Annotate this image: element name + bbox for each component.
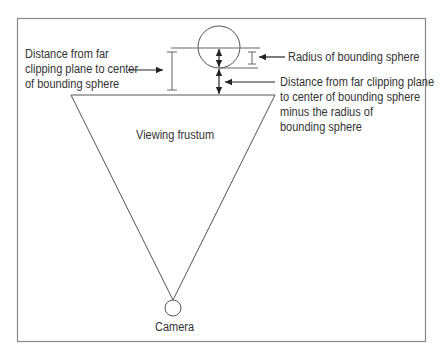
viewing-frustum [71,95,275,300]
label-line: Distance from far clipping plane [280,75,434,90]
label-line: of bounding sphere [25,77,138,92]
label-line: Distance from far [25,47,138,62]
label-line: minus the radius of [280,105,434,120]
distance-center-bracket [167,52,177,90]
distance-center-label: Distance from far clipping plane to cent… [25,47,138,92]
radius-label: Radius of bounding sphere [288,50,419,65]
radius-bracket [248,52,256,64]
viewing-frustum-label: Viewing frustum [136,128,214,143]
camera-label: Camera [155,320,194,335]
camera-icon [165,300,181,316]
label-line: clipping plane to center [25,62,138,77]
distance-minus-radius-label: Distance from far clipping plane to cent… [280,75,434,135]
label-line: bounding sphere [280,120,434,135]
label-line: to center of bounding sphere [280,90,434,105]
